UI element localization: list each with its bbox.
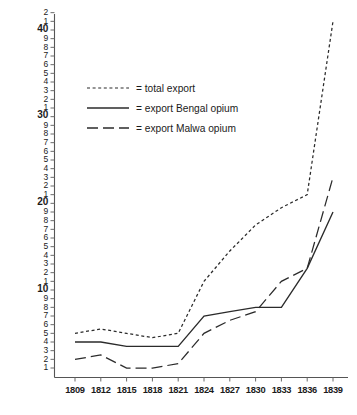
y-axis-tick-label: 3 (22, 259, 48, 268)
y-axis-tick-label: 2 (22, 268, 48, 277)
y-axis-tick-label: 3 (22, 86, 48, 95)
y-axis-tick-label: 2 (22, 181, 48, 190)
y-axis-tick-label: 1 (22, 103, 48, 112)
y-axis-tick-label: 1 (22, 17, 48, 26)
y-axis-tick-label: 2 (22, 95, 48, 104)
y-axis-tick-label: 1 (22, 363, 48, 372)
chart-legend: = total export = export Bengal opium = e… (86, 78, 238, 138)
y-axis-tick-label: 1 (22, 277, 48, 286)
legend-item-malwa-opium: = export Malwa opium (86, 118, 238, 138)
legend-swatch-dotted (86, 83, 130, 93)
y-axis-ticks (51, 13, 55, 368)
legend-swatch-solid (86, 103, 130, 113)
y-axis-tick-label: 3 (22, 173, 48, 182)
series-line-export-bengal-opium (75, 212, 333, 346)
y-axis-tick-label: 9 (22, 34, 48, 43)
y-axis-tick-label: 5 (22, 242, 48, 251)
y-axis-tick-label: 1 (22, 190, 48, 199)
y-axis-tick-label: 6 (22, 60, 48, 69)
y-axis-tick-label: 8 (22, 43, 48, 52)
y-axis-tick-label: 6 (22, 320, 48, 329)
legend-item-total-export: = total export (86, 78, 238, 98)
series-line-export-malwa-opium (75, 177, 333, 368)
y-axis-tick-label: 7 (22, 51, 48, 60)
legend-label-bengal-opium: = export Bengal opium (136, 103, 238, 114)
y-axis-tick-label: 40 (22, 25, 48, 34)
y-axis-tick-label: 8 (22, 129, 48, 138)
y-axis-tick-label: 4 (22, 164, 48, 173)
y-axis-tick-label: 20 (22, 198, 48, 207)
y-axis-tick-label: 6 (22, 147, 48, 156)
legend-swatch-dashed (86, 123, 130, 133)
y-axis-tick-label: 7 (22, 311, 48, 320)
x-axis-ticks (75, 378, 333, 382)
series-line-total-export (75, 21, 333, 337)
legend-label-total-export: = total export (136, 83, 195, 94)
y-axis-tick-label: 8 (22, 303, 48, 312)
y-axis-tick-label: 2 (22, 355, 48, 364)
y-axis-tick-label: 4 (22, 251, 48, 260)
y-axis-tick-label: 5 (22, 69, 48, 78)
y-axis-tick-label: 4 (22, 77, 48, 86)
chart-plot-area (0, 0, 357, 415)
y-axis-tick-label: 6 (22, 233, 48, 242)
chart-axes (55, 14, 349, 378)
y-axis-tick-label: 9 (22, 207, 48, 216)
legend-item-bengal-opium: = export Bengal opium (86, 98, 238, 118)
chart-series-layer (75, 21, 333, 368)
opium-export-line-chart: 1234567891012345678920123456789301234567… (0, 0, 357, 415)
y-axis-tick-label: 30 (22, 111, 48, 120)
y-axis-tick-label: 2 (22, 8, 48, 17)
y-axis-tick-label: 9 (22, 121, 48, 130)
y-axis-tick-label: 10 (22, 285, 48, 294)
y-axis-tick-label: 4 (22, 337, 48, 346)
y-axis-tick-label: 7 (22, 138, 48, 147)
legend-label-malwa-opium: = export Malwa opium (136, 123, 236, 134)
y-axis-tick-label: 5 (22, 155, 48, 164)
y-axis-tick-label: 9 (22, 294, 48, 303)
x-axis-tick-label: 1839 (316, 385, 350, 395)
y-axis-tick-label: 7 (22, 225, 48, 234)
y-axis-tick-label: 3 (22, 346, 48, 355)
y-axis-tick-label: 8 (22, 216, 48, 225)
y-axis-tick-label: 5 (22, 329, 48, 338)
